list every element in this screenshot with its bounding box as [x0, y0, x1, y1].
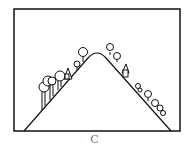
hill-illustration — [0, 0, 189, 153]
figure-caption: C — [0, 133, 189, 147]
